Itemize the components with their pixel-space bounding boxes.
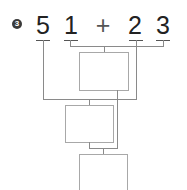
connector-bracket-top bbox=[70, 46, 164, 47]
underline-one bbox=[64, 40, 78, 41]
answer-box-2[interactable] bbox=[65, 105, 114, 143]
plus-sign: + bbox=[95, 13, 111, 38]
digit-one: 1 bbox=[63, 13, 79, 38]
connector-two-down bbox=[136, 40, 137, 100]
answer-box-3[interactable] bbox=[79, 154, 128, 190]
problem-number-badge: 3 bbox=[12, 19, 22, 29]
connector-five-down bbox=[43, 40, 44, 100]
connector-five-two-bar bbox=[43, 99, 137, 100]
connector-box1-down bbox=[117, 90, 118, 149]
digit-two: 2 bbox=[127, 13, 143, 38]
digit-three: 3 bbox=[155, 13, 171, 38]
answer-box-1[interactable] bbox=[79, 52, 129, 91]
digit-five: 5 bbox=[35, 13, 51, 38]
